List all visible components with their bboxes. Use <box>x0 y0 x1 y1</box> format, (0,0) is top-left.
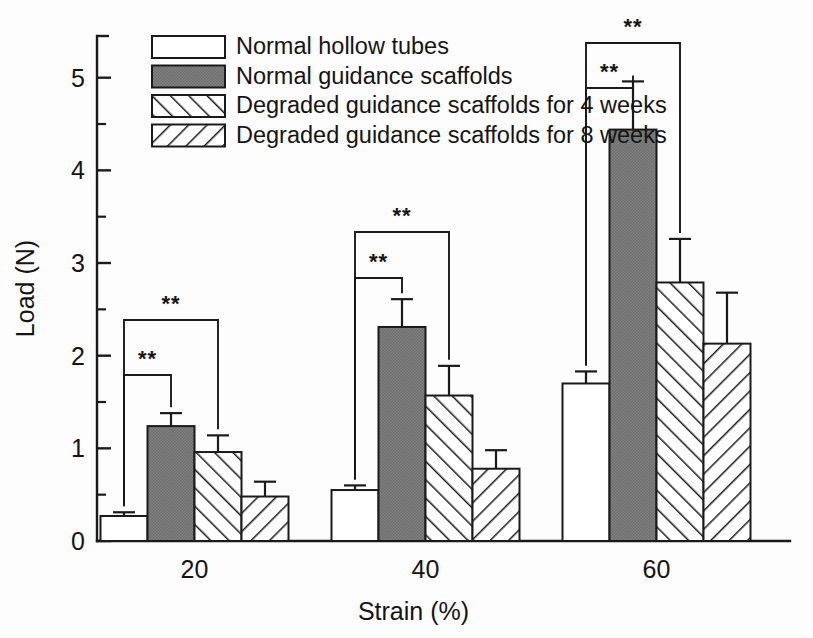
legend-label-3: Degraded guidance scaffolds for 8 weeks <box>236 122 667 148</box>
significance-stars: ** <box>161 291 180 316</box>
y-tick-label: 4 <box>71 156 85 184</box>
legend-label-0: Normal hollow tubes <box>236 33 449 59</box>
x-tick-label: 40 <box>412 555 440 583</box>
bar <box>332 490 379 541</box>
y-axis-title: Load (N) <box>11 240 39 337</box>
y-tick-label: 5 <box>71 64 85 92</box>
legend-swatch-1 <box>152 66 225 88</box>
y-tick-label: 0 <box>71 527 85 555</box>
bar <box>704 344 751 541</box>
y-tick-label: 3 <box>71 249 85 277</box>
bar <box>563 383 610 541</box>
bar <box>473 469 520 541</box>
bar <box>610 130 657 541</box>
legend: Normal hollow tubesNormal guidance scaff… <box>152 33 667 148</box>
significance-stars: ** <box>623 14 642 39</box>
bar <box>148 426 195 541</box>
x-axis-title: Strain (%) <box>358 597 469 625</box>
significance-stars: ** <box>600 59 619 84</box>
y-tick-label: 2 <box>71 342 85 370</box>
bars <box>101 81 751 541</box>
bar <box>195 452 242 541</box>
bar <box>426 396 473 541</box>
x-tick-label: 20 <box>181 555 209 583</box>
significance-stars: ** <box>392 203 411 228</box>
bar <box>657 282 704 541</box>
legend-label-1: Normal guidance scaffolds <box>236 63 513 89</box>
significance-stars: ** <box>369 249 388 274</box>
legend-label-2: Degraded guidance scaffolds for 4 weeks <box>236 92 667 118</box>
bar <box>379 327 426 541</box>
y-tick-label: 1 <box>71 434 85 462</box>
bar <box>242 497 289 541</box>
significance-stars: ** <box>138 346 157 371</box>
legend-swatch-3 <box>152 125 225 147</box>
chart-canvas: 012345204060Load (N)Strain (%) *********… <box>0 0 813 638</box>
bar-chart-figure: 012345204060Load (N)Strain (%) *********… <box>0 0 813 638</box>
x-tick-label: 60 <box>643 555 671 583</box>
bar <box>101 516 148 541</box>
legend-swatch-2 <box>152 95 225 117</box>
legend-swatch-0 <box>152 36 225 58</box>
